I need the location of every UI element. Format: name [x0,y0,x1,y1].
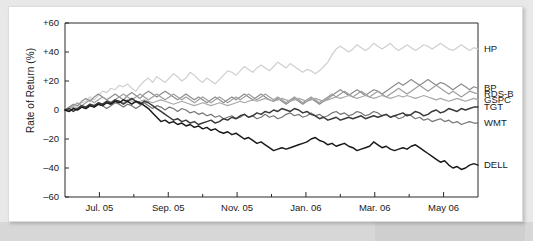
legend-label-dell: DELL [484,159,508,170]
y-tick-label: –40 [29,162,59,173]
y-tick-label: 0 [29,104,59,115]
chart-plot-area: Rate of Return (%) +60+40+200–20–40–60 J… [9,7,524,223]
x-tick-label: Jan. 06 [276,202,336,213]
legend-label-wmt: WMT [484,117,507,128]
series-line-tgt [65,98,478,124]
axis-lines [65,23,478,197]
y-tick-label: +20 [29,75,59,86]
x-tick-label: Nov. 05 [207,202,267,213]
y-tick-label: –60 [29,191,59,202]
line-chart-svg [9,7,524,223]
x-tick-label: May 06 [414,202,474,213]
chart-card: Rate of Return (%) +60+40+200–20–40–60 J… [8,6,523,222]
series-line-dell [65,100,478,170]
x-tick-label: Sep. 05 [138,202,198,213]
screenshot-root: Rate of Return (%) +60+40+200–20–40–60 J… [0,0,533,241]
legend-label-tgt: TGT [484,101,503,112]
series-line-wmt [65,103,478,125]
series-lines [65,43,478,169]
x-tick-label: Mar. 06 [345,202,405,213]
y-tick-label: –20 [29,133,59,144]
y-tick-label: +60 [29,17,59,28]
y-tick-label: +40 [29,46,59,57]
legend-label-hp: HP [484,43,497,54]
x-tick-label: Jul. 05 [69,202,129,213]
page-background-strip-shade [375,222,525,241]
